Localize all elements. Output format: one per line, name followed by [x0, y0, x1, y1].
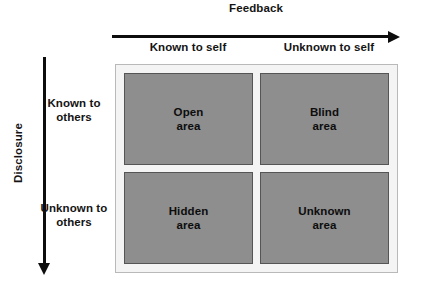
row-header-unknown-to-others-line2: others	[34, 215, 114, 229]
quadrant-open-area-sub: area	[176, 119, 200, 133]
feedback-arrow-line	[112, 35, 390, 38]
column-header-unknown-to-self: Unknown to self	[258, 41, 400, 53]
quadrant-hidden-area-sub: area	[176, 218, 200, 232]
quadrant-unknown-area-name: Unknown	[298, 204, 350, 218]
quadrant-hidden-area-name: Hidden	[169, 204, 209, 218]
arrow-down-icon	[38, 263, 50, 275]
row-header-unknown-to-others-line1: Unknown to	[34, 201, 114, 215]
johari-window-diagram: Feedback Known to self Unknown to self D…	[0, 0, 424, 292]
quadrant-blind-area-name: Blind	[310, 105, 339, 119]
johari-matrix: Open area Blind area Hidden area Unknown…	[115, 64, 398, 273]
quadrant-blind-area-sub: area	[312, 119, 336, 133]
quadrant-unknown-area[interactable]: Unknown area	[260, 172, 389, 264]
quadrant-open-area-name: Open	[174, 105, 204, 119]
disclosure-axis-arrow	[38, 57, 52, 277]
row-header-unknown-to-others: Unknown to others	[34, 201, 114, 229]
row-header-known-to-others-line1: Known to	[34, 96, 114, 110]
row-header-known-to-others: Known to others	[34, 96, 114, 124]
feedback-axis-title: Feedback	[112, 2, 400, 14]
disclosure-axis-title: Disclosure	[12, 109, 24, 197]
column-header-known-to-self: Known to self	[118, 41, 258, 53]
disclosure-arrow-line	[43, 57, 46, 265]
quadrant-unknown-area-sub: area	[312, 218, 336, 232]
quadrant-blind-area[interactable]: Blind area	[260, 73, 389, 165]
row-header-known-to-others-line2: others	[34, 110, 114, 124]
quadrant-open-area[interactable]: Open area	[124, 73, 253, 165]
quadrant-hidden-area[interactable]: Hidden area	[124, 172, 253, 264]
